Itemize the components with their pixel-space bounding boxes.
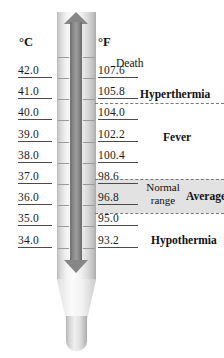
normal-range-caption: Normal range bbox=[140, 181, 186, 207]
fahrenheit-scale-label-value: 105.8 bbox=[98, 85, 138, 98]
tube-tick bbox=[58, 163, 69, 164]
tube-tick bbox=[83, 248, 95, 249]
celsius-scale-label-value: 42.0 bbox=[18, 64, 52, 77]
normal-range-caption-line2: range bbox=[151, 194, 175, 206]
tube-tick bbox=[58, 142, 69, 143]
tube-tick bbox=[58, 120, 69, 121]
fahrenheit-scale-label-5: 98.6 bbox=[98, 170, 138, 184]
celsius-scale-label-rule bbox=[18, 119, 52, 120]
celsius-scale-label-value: 40.0 bbox=[18, 106, 52, 119]
fahrenheit-scale-label-value: 102.2 bbox=[98, 128, 138, 141]
celsius-scale-label-rule bbox=[18, 98, 52, 99]
mercury-column bbox=[70, 22, 82, 262]
fahrenheit-scale-label-rule bbox=[98, 247, 138, 248]
fahrenheit-scale-label-rule bbox=[98, 98, 138, 99]
tube-tick bbox=[83, 99, 95, 100]
arrow-down-icon bbox=[64, 260, 88, 273]
tube-tick bbox=[83, 142, 95, 143]
fahrenheit-scale-label-rule bbox=[98, 183, 138, 184]
celsius-scale-label-rule bbox=[18, 141, 52, 142]
tube-tick bbox=[58, 99, 69, 100]
celsius-unit-header: °C bbox=[19, 35, 33, 50]
divider-normal-bottom bbox=[95, 213, 224, 214]
zone-label-hyperthermia: Hyperthermia bbox=[140, 88, 210, 100]
fahrenheit-scale-label-3: 102.2 bbox=[98, 128, 138, 142]
celsius-scale-label-rule bbox=[18, 247, 52, 248]
thermometer-bulb-stem bbox=[66, 316, 87, 351]
fahrenheit-scale-label-1: 105.8 bbox=[98, 85, 138, 99]
celsius-scale-label-1: 41.0 bbox=[18, 85, 52, 99]
celsius-scale-label-value: 34.0 bbox=[18, 234, 52, 247]
celsius-scale-label-rule bbox=[18, 225, 52, 226]
fahrenheit-scale-label-6: 96.8 bbox=[98, 191, 138, 205]
tube-tick bbox=[83, 78, 95, 79]
fahrenheit-scale-label-8: 93.2 bbox=[98, 234, 138, 248]
celsius-scale-label-value: 38.0 bbox=[18, 149, 52, 162]
fahrenheit-scale-label-rule bbox=[98, 119, 138, 120]
celsius-scale-label-value: 41.0 bbox=[18, 85, 52, 98]
celsius-scale-label-value: 39.0 bbox=[18, 128, 52, 141]
celsius-scale-label-value: 36.0 bbox=[18, 191, 52, 204]
celsius-scale-label-rule bbox=[18, 204, 52, 205]
fahrenheit-scale-label-7: 95.0 bbox=[98, 212, 138, 226]
fahrenheit-scale-label-rule bbox=[98, 77, 138, 78]
fahrenheit-scale-label-rule bbox=[98, 141, 138, 142]
fahrenheit-scale-label-rule bbox=[98, 162, 138, 163]
normal-range-caption-line1: Normal bbox=[146, 181, 180, 193]
tube-tick bbox=[58, 184, 69, 185]
fahrenheit-scale-label-4: 100.4 bbox=[98, 149, 138, 163]
fahrenheit-scale-label-value: 104.0 bbox=[98, 106, 138, 119]
fahrenheit-scale-label-rule bbox=[98, 204, 138, 205]
tube-tick bbox=[58, 205, 69, 206]
celsius-scale-label-4: 38.0 bbox=[18, 149, 52, 163]
zone-label-hypothermia: Hypothermia bbox=[151, 234, 217, 246]
zone-label-fever: Fever bbox=[163, 131, 191, 143]
celsius-scale-label-0: 42.0 bbox=[18, 64, 52, 78]
zone-label-death: Death bbox=[116, 57, 143, 69]
celsius-scale-label-rule bbox=[18, 183, 52, 184]
divider-hyperthermia bbox=[95, 103, 224, 104]
celsius-scale-label-5: 37.0 bbox=[18, 170, 52, 184]
tube-tick bbox=[58, 57, 69, 58]
thermometer-bulb-taper bbox=[52, 279, 101, 319]
celsius-scale-label-6: 36.0 bbox=[18, 191, 52, 205]
fahrenheit-unit-header: °F bbox=[98, 35, 111, 50]
fahrenheit-scale-label-value: 96.8 bbox=[98, 191, 138, 204]
celsius-scale-label-2: 40.0 bbox=[18, 106, 52, 120]
tube-tick bbox=[58, 248, 69, 249]
fahrenheit-scale-label-rule bbox=[98, 225, 138, 226]
celsius-scale-label-7: 35.0 bbox=[18, 212, 52, 226]
fahrenheit-scale-label-2: 104.0 bbox=[98, 106, 138, 120]
celsius-scale-label-3: 39.0 bbox=[18, 128, 52, 142]
divider-normal-top bbox=[95, 179, 224, 180]
fahrenheit-scale-label-value: 95.0 bbox=[98, 212, 138, 225]
thermometer-diagram: °C °F 42.041.040.039.038.037.036.035.034… bbox=[0, 0, 224, 358]
tube-tick bbox=[83, 163, 95, 164]
zone-label-average: Average bbox=[186, 190, 224, 202]
celsius-scale-label-rule bbox=[18, 77, 52, 78]
fahrenheit-scale-label-value: 93.2 bbox=[98, 234, 138, 247]
fahrenheit-scale-label-value: 98.6 bbox=[98, 170, 138, 183]
tube-tick bbox=[83, 120, 95, 121]
tube-tick bbox=[83, 226, 95, 227]
tube-tick bbox=[83, 57, 95, 58]
tube-tick bbox=[58, 78, 69, 79]
celsius-scale-label-rule bbox=[18, 162, 52, 163]
celsius-scale-label-value: 37.0 bbox=[18, 170, 52, 183]
celsius-scale-label-8: 34.0 bbox=[18, 234, 52, 248]
tube-tick bbox=[83, 184, 95, 185]
tube-tick bbox=[58, 226, 69, 227]
tube-tick bbox=[83, 205, 95, 206]
fahrenheit-scale-label-value: 100.4 bbox=[98, 149, 138, 162]
celsius-scale-label-value: 35.0 bbox=[18, 212, 52, 225]
